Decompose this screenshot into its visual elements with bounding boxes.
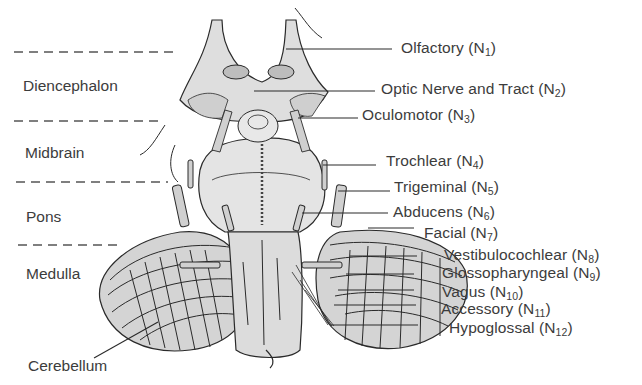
nerve-label-olfactory: Olfactory (N1): [401, 39, 496, 58]
nerve-label-hypoglossal: Hypoglossal (N12): [449, 319, 573, 338]
region-label-cerebellum: Cerebellum: [28, 357, 107, 375]
nerve-label-optic: Optic Nerve and Tract (N2): [381, 80, 566, 99]
nerve-label-facial: Facial (N7): [424, 224, 498, 243]
diencephalon: [180, 8, 328, 152]
nerve-label-trigeminal: Trigeminal (N5): [394, 178, 499, 197]
region-label-pons: Pons: [26, 208, 61, 226]
nerve-label-abducens: Abducens (N6): [393, 203, 495, 222]
brainstem-diagram: Diencephalon Midbrain Pons Medulla Cereb…: [0, 0, 642, 385]
region-label-midbrain: Midbrain: [25, 144, 84, 162]
region-label-diencephalon: Diencephalon: [23, 77, 118, 95]
nerve-label-oculomotor: Oculomotor (N3): [362, 106, 475, 125]
nerve-label-trochlear: Trochlear (N4): [386, 152, 484, 171]
nerve-label-glossopharyngeal: Glossopharyngeal (N9): [442, 264, 601, 283]
nerve-label-vestibulocochlear: Vestibulocochlear (N8): [444, 246, 599, 265]
region-label-medulla: Medulla: [26, 265, 80, 283]
nerve-label-accessory: Accessory (N11): [441, 300, 551, 319]
